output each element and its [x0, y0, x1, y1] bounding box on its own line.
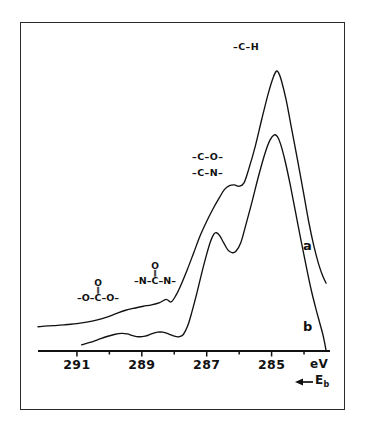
- peak-label-ch: –C–H: [233, 42, 259, 52]
- carbonate-chain: –O–C–O–: [68, 293, 128, 303]
- carbonate-group-label: O ‖ –O–C–O–: [68, 279, 128, 303]
- x-axis-tick-label-287: 287: [192, 359, 222, 372]
- peak-label-cn: –C–N–: [192, 168, 223, 178]
- urea-chain: –N–C–N–: [124, 276, 186, 286]
- curve-b-tag: b: [303, 320, 313, 333]
- binding-energy-label: Eb: [315, 374, 330, 389]
- urea-group-label: O ‖ –N–C–N–: [124, 262, 186, 286]
- binding-energy-arrow-icon: [295, 379, 313, 386]
- binding-energy-subscript: b: [324, 380, 330, 389]
- peak-label-co: –C–O–: [192, 152, 223, 162]
- curve-a-tag: a: [303, 239, 312, 252]
- binding-energy-symbol: E: [315, 373, 324, 387]
- x-axis-tick-label-285: 285: [257, 359, 287, 372]
- x-axis-tick-label-289: 289: [127, 359, 157, 372]
- axis-unit-label: eV: [310, 358, 328, 370]
- x-axis-tick-label-291: 291: [62, 359, 92, 372]
- figure-root: –C–H –C–O– –C–N– O ‖ –O–C–O– O ‖ –N–C–N–…: [0, 0, 366, 431]
